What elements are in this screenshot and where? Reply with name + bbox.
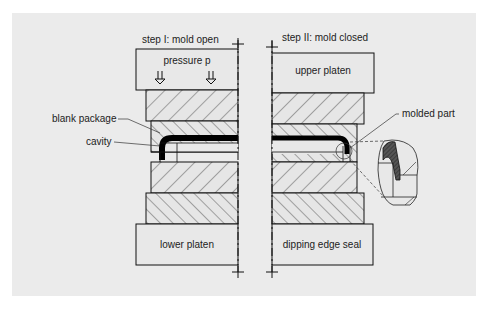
step-2-mold-closed: step II: mold closed upper platen dippin… — [266, 32, 455, 278]
lower-die-block — [151, 162, 238, 193]
lower-base-block — [146, 193, 238, 224]
step-2-title: step II: mold closed — [282, 32, 368, 43]
cross-mark-top-right — [266, 41, 278, 53]
step-1-title: step I: mold open — [142, 34, 219, 45]
step-1-mold-open: step I: mold open pressure p lower p — [52, 34, 244, 278]
lower-base-block-closed — [272, 193, 364, 224]
blank-package-label: blank package — [52, 113, 117, 124]
upper-platen-label: upper platen — [295, 65, 351, 76]
cross-mark-top-left — [232, 38, 244, 50]
molded-part-label: molded part — [402, 108, 455, 119]
upper-punch-block — [146, 90, 238, 121]
mold-process-diagram: step I: mold open pressure p lower p — [0, 0, 488, 310]
pressure-label: pressure p — [163, 55, 211, 66]
dipping-edge-seal-label: dipping edge seal — [283, 239, 361, 250]
upper-punch-block-closed — [272, 93, 364, 124]
lower-die-block-closed — [272, 162, 357, 193]
lower-platen-label: lower platen — [160, 239, 214, 250]
cross-mark-bottom-right — [266, 266, 278, 278]
cross-mark-bottom-left — [232, 266, 244, 278]
cavity-label: cavity — [86, 136, 112, 147]
